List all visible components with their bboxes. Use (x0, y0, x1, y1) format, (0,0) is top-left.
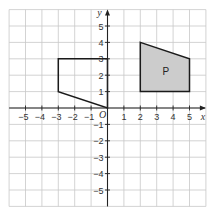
x-tick-label: −2 (68, 112, 78, 122)
y-tick-label: 5 (98, 22, 103, 32)
x-axis-label: x (200, 111, 206, 122)
x-tick-label: −3 (51, 112, 61, 122)
y-tick-label: 2 (98, 71, 103, 81)
y-tick-label: −4 (93, 169, 103, 179)
axes (9, 10, 206, 207)
y-tick-label: 4 (98, 38, 103, 48)
y-tick-label: 3 (98, 54, 103, 64)
x-axis-arrow-icon (200, 106, 206, 111)
shape-label: P (163, 66, 170, 77)
tick-labels: −5−4−3−2−11234554321−1−2−3−4−5xyO (18, 7, 205, 196)
y-tick-label: −1 (93, 120, 103, 130)
y-axis-label: y (96, 7, 102, 18)
y-tick-label: −5 (93, 186, 103, 196)
x-tick-label: 5 (187, 112, 192, 122)
x-tick-label: 3 (154, 112, 159, 122)
x-tick-label: 4 (171, 112, 176, 122)
y-axis-arrow-icon (105, 10, 110, 16)
origin-label: O (99, 109, 106, 120)
x-tick-label: 1 (121, 112, 126, 122)
unshaded-quadrilateral (58, 59, 107, 108)
x-tick-label: −5 (18, 112, 28, 122)
y-tick-label: −3 (93, 153, 103, 163)
y-tick-label: −2 (93, 136, 103, 146)
coordinate-grid: P −5−4−3−2−11234554321−1−2−3−4−5xyO (0, 0, 211, 215)
y-tick-label: 1 (98, 87, 103, 97)
x-tick-label: −4 (35, 112, 45, 122)
x-tick-label: 2 (138, 112, 143, 122)
